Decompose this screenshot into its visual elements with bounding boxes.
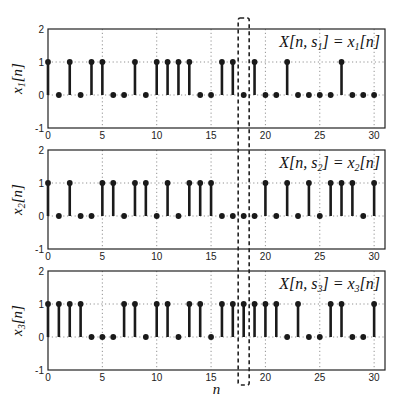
x-tick-label: 30: [369, 130, 381, 141]
stem-marker: [208, 334, 214, 340]
stem-marker: [219, 59, 225, 65]
y-tick-label: -1: [35, 244, 44, 255]
stem-marker: [89, 59, 95, 65]
stem-marker: [328, 92, 334, 98]
stem-marker: [110, 92, 116, 98]
x-tick-label: 15: [206, 130, 218, 141]
stem-marker: [230, 301, 236, 307]
x-tick-label: 25: [314, 251, 326, 262]
x-tick-label: 15: [206, 251, 218, 262]
stem-marker: [295, 301, 301, 307]
stem-marker: [143, 92, 149, 98]
y-tick-label: 2: [38, 24, 44, 35]
stem-marker: [306, 334, 312, 340]
stem-marker: [121, 213, 127, 219]
stem-marker: [263, 301, 269, 307]
stem-marker: [110, 180, 116, 186]
stem-marker: [263, 180, 269, 186]
stem-marker: [121, 301, 127, 307]
y-tick-label: 0: [38, 211, 44, 222]
y-tick-label: 1: [38, 178, 44, 189]
stem-marker: [186, 59, 192, 65]
x-tick-label: 0: [45, 372, 51, 383]
stem-marker: [89, 213, 95, 219]
x-tick-label: 25: [314, 130, 326, 141]
stem-series: [45, 180, 377, 219]
stem-marker: [219, 213, 225, 219]
stem-marker: [208, 92, 214, 98]
stem-marker: [78, 301, 84, 307]
stem-marker: [349, 92, 355, 98]
stem-marker: [284, 334, 290, 340]
subplot-3: -1012051015202530x3[n]X[n, s3] = x3[n]n: [9, 266, 385, 397]
stem-marker: [360, 213, 366, 219]
x-axis-label: n: [213, 381, 221, 397]
stem-marker: [263, 92, 269, 98]
stem-marker: [230, 213, 236, 219]
y-tick-label: -1: [35, 123, 44, 134]
stem-marker: [273, 213, 279, 219]
stem-marker: [371, 180, 377, 186]
stem-marker: [67, 59, 73, 65]
y-tick-label: 0: [38, 332, 44, 343]
x-tick-label: 5: [100, 251, 106, 262]
stem-marker: [371, 301, 377, 307]
x-tick-label: 25: [314, 372, 326, 383]
stem-marker: [78, 213, 84, 219]
stem-marker: [110, 334, 116, 340]
stem-marker: [349, 334, 355, 340]
stem-marker: [339, 180, 345, 186]
stem-marker: [317, 334, 323, 340]
stem-marker: [132, 301, 138, 307]
stem-marker: [56, 92, 62, 98]
x-tick-label: 20: [260, 372, 272, 383]
x-tick-label: 5: [100, 372, 106, 383]
y-axis-label: x3[n]: [9, 305, 27, 337]
stem-marker: [339, 301, 345, 307]
stem-marker: [154, 213, 160, 219]
stem-marker: [360, 334, 366, 340]
stem-marker: [241, 301, 247, 307]
stem-marker: [89, 334, 95, 340]
stem-marker: [241, 92, 247, 98]
y-tick-label: -1: [35, 365, 44, 376]
subplot-2: -1012051015202530x2[n]X[n, s2] = x2[n]: [9, 145, 385, 262]
stem-marker: [176, 213, 182, 219]
stem-marker: [252, 213, 258, 219]
stem-marker: [317, 213, 323, 219]
x-tick-label: 0: [45, 130, 51, 141]
stem-marker: [186, 301, 192, 307]
stem-marker: [99, 334, 105, 340]
stem-marker: [99, 180, 105, 186]
stem-marker: [306, 180, 312, 186]
x-tick-label: 30: [369, 251, 381, 262]
stem-marker: [143, 180, 149, 186]
stem-marker: [132, 180, 138, 186]
series-annotation: X[n, s3] = x3[n]: [278, 275, 380, 294]
stem-marker: [328, 301, 334, 307]
stem-marker: [132, 59, 138, 65]
stem-marker: [328, 180, 334, 186]
stem-marker: [154, 59, 160, 65]
stem-marker: [284, 180, 290, 186]
x-tick-label: 0: [45, 251, 51, 262]
stem-marker: [99, 59, 105, 65]
x-tick-label: 5: [100, 130, 106, 141]
stem-marker: [165, 180, 171, 186]
stem-marker: [306, 92, 312, 98]
stem-marker: [295, 92, 301, 98]
y-axis-label: x1[n]: [9, 63, 27, 95]
y-tick-label: 0: [38, 90, 44, 101]
stem-marker: [349, 180, 355, 186]
stem-marker: [165, 301, 171, 307]
stem-marker: [273, 92, 279, 98]
stem-marker: [186, 180, 192, 186]
stem-marker: [78, 92, 84, 98]
y-tick-label: 2: [38, 145, 44, 156]
stem-marker: [165, 59, 171, 65]
stem-marker: [252, 301, 258, 307]
stem-marker: [219, 301, 225, 307]
stem-marker: [252, 59, 258, 65]
stem-marker: [56, 213, 62, 219]
stem-marker: [284, 59, 290, 65]
